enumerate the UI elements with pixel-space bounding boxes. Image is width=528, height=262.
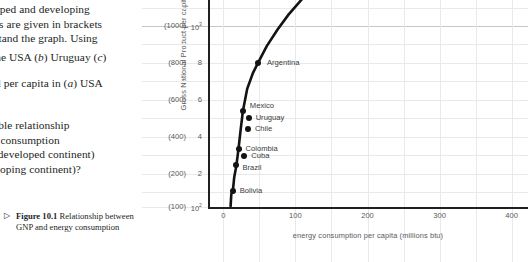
data-point (236, 146, 242, 152)
body-paragraph-4: ssible relationshipgy consumption (a dev… (0, 118, 95, 176)
data-point-label: Chile (255, 124, 272, 133)
data-point-label: Uruguay (256, 113, 285, 122)
caption-body: Figure 10.1 Relationship between GNP and… (16, 211, 144, 232)
y-tick-label-bracketed: (400) (152, 132, 186, 141)
data-point (240, 108, 246, 114)
y-tick-label: 102 (188, 202, 202, 213)
textbook-text-column: oped and developinges are given in brack… (0, 0, 142, 262)
y-tick-label-bracketed: (100) (152, 202, 186, 211)
x-tick-label: 100 (280, 211, 310, 220)
x-tick-label: 0 (208, 211, 238, 220)
figure-caption: ▷ Figure 10.1 Relationship between GNP a… (4, 211, 144, 232)
data-point-label: Bolivia (240, 186, 262, 195)
y-tick-label: 8 (188, 58, 202, 67)
data-point-label: Cuba (251, 151, 269, 160)
body-paragraph-2: the USA (b) Uruguay (c) (0, 50, 106, 65)
data-point-label: Argentina (267, 58, 300, 67)
y-tick-label: 4 (188, 132, 202, 141)
y-tick-label: 103 (188, 21, 202, 32)
y-tick-label-bracketed: (800) (152, 58, 186, 67)
x-tick-label: 400 (497, 211, 527, 220)
data-point-label: Mexico (250, 101, 274, 110)
data-point-label: Brazil (242, 163, 261, 172)
x-tick-label: 300 (425, 211, 455, 220)
data-point (246, 115, 252, 121)
y-tick-label-bracketed: (200) (152, 169, 186, 178)
x-axis-title: energy consumption per capita (millions … (208, 231, 528, 240)
y-tick-label-bracketed: (1000) (152, 21, 186, 30)
body-paragraph-1: oped and developinges are given in brack… (0, 2, 102, 46)
caption-triangle-icon: ▷ (4, 211, 10, 222)
gnp-energy-chart: Gross National Product per capita (1000)… (142, 0, 528, 262)
data-point (255, 60, 261, 66)
x-tick-label: 200 (353, 211, 383, 220)
y-tick-label: 2 (188, 169, 202, 178)
body-paragraph-3: ed per capita in (a) USA (0, 76, 103, 91)
y-tick-label: 6 (188, 95, 202, 104)
caption-label: Figure 10.1 (16, 211, 57, 221)
y-tick-label-bracketed: (600) (152, 95, 186, 104)
